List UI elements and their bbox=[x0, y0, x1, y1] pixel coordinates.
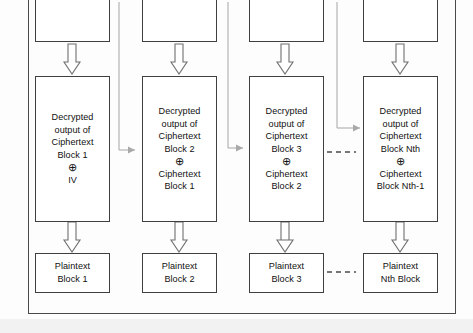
cipher-line: Block 1 bbox=[57, 149, 87, 161]
cipher-box-col1: Decrypted output of Ciphertext Block 1 ⊕… bbox=[35, 76, 110, 222]
plaintext-line: Plaintext bbox=[55, 260, 90, 273]
plaintext-box-col4: Plaintext Nth Block bbox=[363, 253, 438, 293]
cipher-line: Decrypted bbox=[159, 105, 201, 117]
chain-connector-3-to-4 bbox=[337, 2, 360, 128]
cipher-line: IV bbox=[68, 174, 77, 186]
plaintext-box-col1: Plaintext Block 1 bbox=[35, 253, 110, 293]
cipher-box-col2: Decrypted output of Ciphertext Block 2 ⊕… bbox=[142, 76, 217, 222]
plaintext-line: Block 2 bbox=[164, 273, 194, 286]
cipher-line: output of bbox=[55, 124, 91, 136]
plaintext-line: Plaintext bbox=[162, 260, 197, 273]
cipher-box-col4: Decrypted output of Ciphertext Block Nth… bbox=[363, 76, 438, 222]
page-bottom-margin bbox=[0, 319, 473, 333]
cipher-line: Ciphertext bbox=[159, 130, 201, 142]
down-arrow-bottom-col3 bbox=[277, 222, 293, 252]
cipher-line: Ciphertext bbox=[266, 168, 308, 180]
top-box-col4 bbox=[363, 0, 438, 42]
chain-connector-2-to-3 bbox=[228, 2, 243, 148]
cipher-box-col3: Decrypted output of Ciphertext Block 3 ⊕… bbox=[249, 76, 324, 222]
cipher-line: Block Nth bbox=[381, 143, 420, 155]
cipher-line: Ciphertext bbox=[159, 168, 201, 180]
cipher-line: Decrypted bbox=[266, 105, 308, 117]
xor-symbol: ⊕ bbox=[175, 155, 184, 168]
cipher-line: Decrypted bbox=[52, 111, 94, 123]
top-box-col2 bbox=[142, 0, 217, 42]
cbc-decryption-diagram: Decrypted output of Ciphertext Block 1 ⊕… bbox=[0, 0, 473, 333]
chain-connector-1-to-2 bbox=[119, 2, 135, 150]
cipher-line: Ciphertext bbox=[52, 136, 94, 148]
top-box-col3 bbox=[249, 0, 324, 42]
cipher-line: Block 3 bbox=[271, 143, 301, 155]
cipher-line: Ciphertext bbox=[380, 168, 422, 180]
xor-symbol: ⊕ bbox=[396, 155, 405, 168]
plaintext-line: Plaintext bbox=[383, 260, 418, 273]
plaintext-box-col2: Plaintext Block 2 bbox=[142, 253, 217, 293]
cipher-line: Block 1 bbox=[164, 180, 194, 192]
plaintext-line: Block 3 bbox=[271, 273, 301, 286]
down-arrow-top-col3 bbox=[277, 44, 293, 74]
xor-symbol: ⊕ bbox=[282, 155, 291, 168]
plaintext-line: Nth Block bbox=[381, 273, 420, 286]
down-arrow-top-col2 bbox=[171, 44, 187, 74]
cipher-line: Ciphertext bbox=[266, 130, 308, 142]
down-arrow-bottom-col2 bbox=[171, 222, 187, 252]
top-box-col1 bbox=[35, 0, 110, 42]
down-arrow-top-col1 bbox=[64, 44, 80, 74]
plaintext-line: Plaintext bbox=[269, 260, 304, 273]
cipher-line: output of bbox=[269, 118, 305, 130]
down-arrow-bottom-col4 bbox=[392, 222, 408, 252]
plaintext-box-col3: Plaintext Block 3 bbox=[249, 253, 324, 293]
plaintext-line: Block 1 bbox=[57, 273, 87, 286]
cipher-line: output of bbox=[383, 118, 419, 130]
cipher-line: Ciphertext bbox=[380, 130, 422, 142]
cipher-line: output of bbox=[162, 118, 198, 130]
cipher-line: Decrypted bbox=[380, 105, 422, 117]
cipher-line: Block 2 bbox=[271, 180, 301, 192]
down-arrow-top-col4 bbox=[392, 44, 408, 74]
down-arrow-bottom-col1 bbox=[64, 222, 80, 252]
cipher-line: Block Nth-1 bbox=[377, 180, 425, 192]
xor-symbol: ⊕ bbox=[68, 161, 77, 174]
cipher-line: Block 2 bbox=[164, 143, 194, 155]
